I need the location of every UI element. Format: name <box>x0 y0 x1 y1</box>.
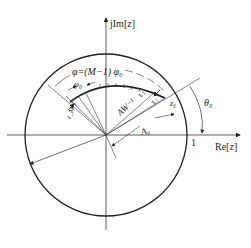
unit-tick-label: 1 <box>191 138 196 148</box>
phi0-label: φ₀ <box>74 80 82 89</box>
a0-dimension-right <box>155 114 174 118</box>
chirp-z-contour-diagram: jIm[z] Re[z] 1 φ=(M−1) φ₀ φ₀ θ₀ A₀ AW⁻¹ … <box>0 0 251 248</box>
real-axis-label: Re[z] <box>215 142 237 152</box>
theta0-label: θ₀ <box>204 98 212 108</box>
phi-total-arc <box>55 75 70 86</box>
phi-total-label: φ=(M−1) φ₀ <box>72 67 123 77</box>
imag-axis-label: jIm[z] <box>110 19 135 29</box>
unit-radius <box>30 135 106 164</box>
phi0-arc-right <box>87 82 95 85</box>
diagram-canvas <box>0 0 251 248</box>
theta0-arc <box>190 86 203 133</box>
z0-label: z₀ <box>170 100 176 108</box>
